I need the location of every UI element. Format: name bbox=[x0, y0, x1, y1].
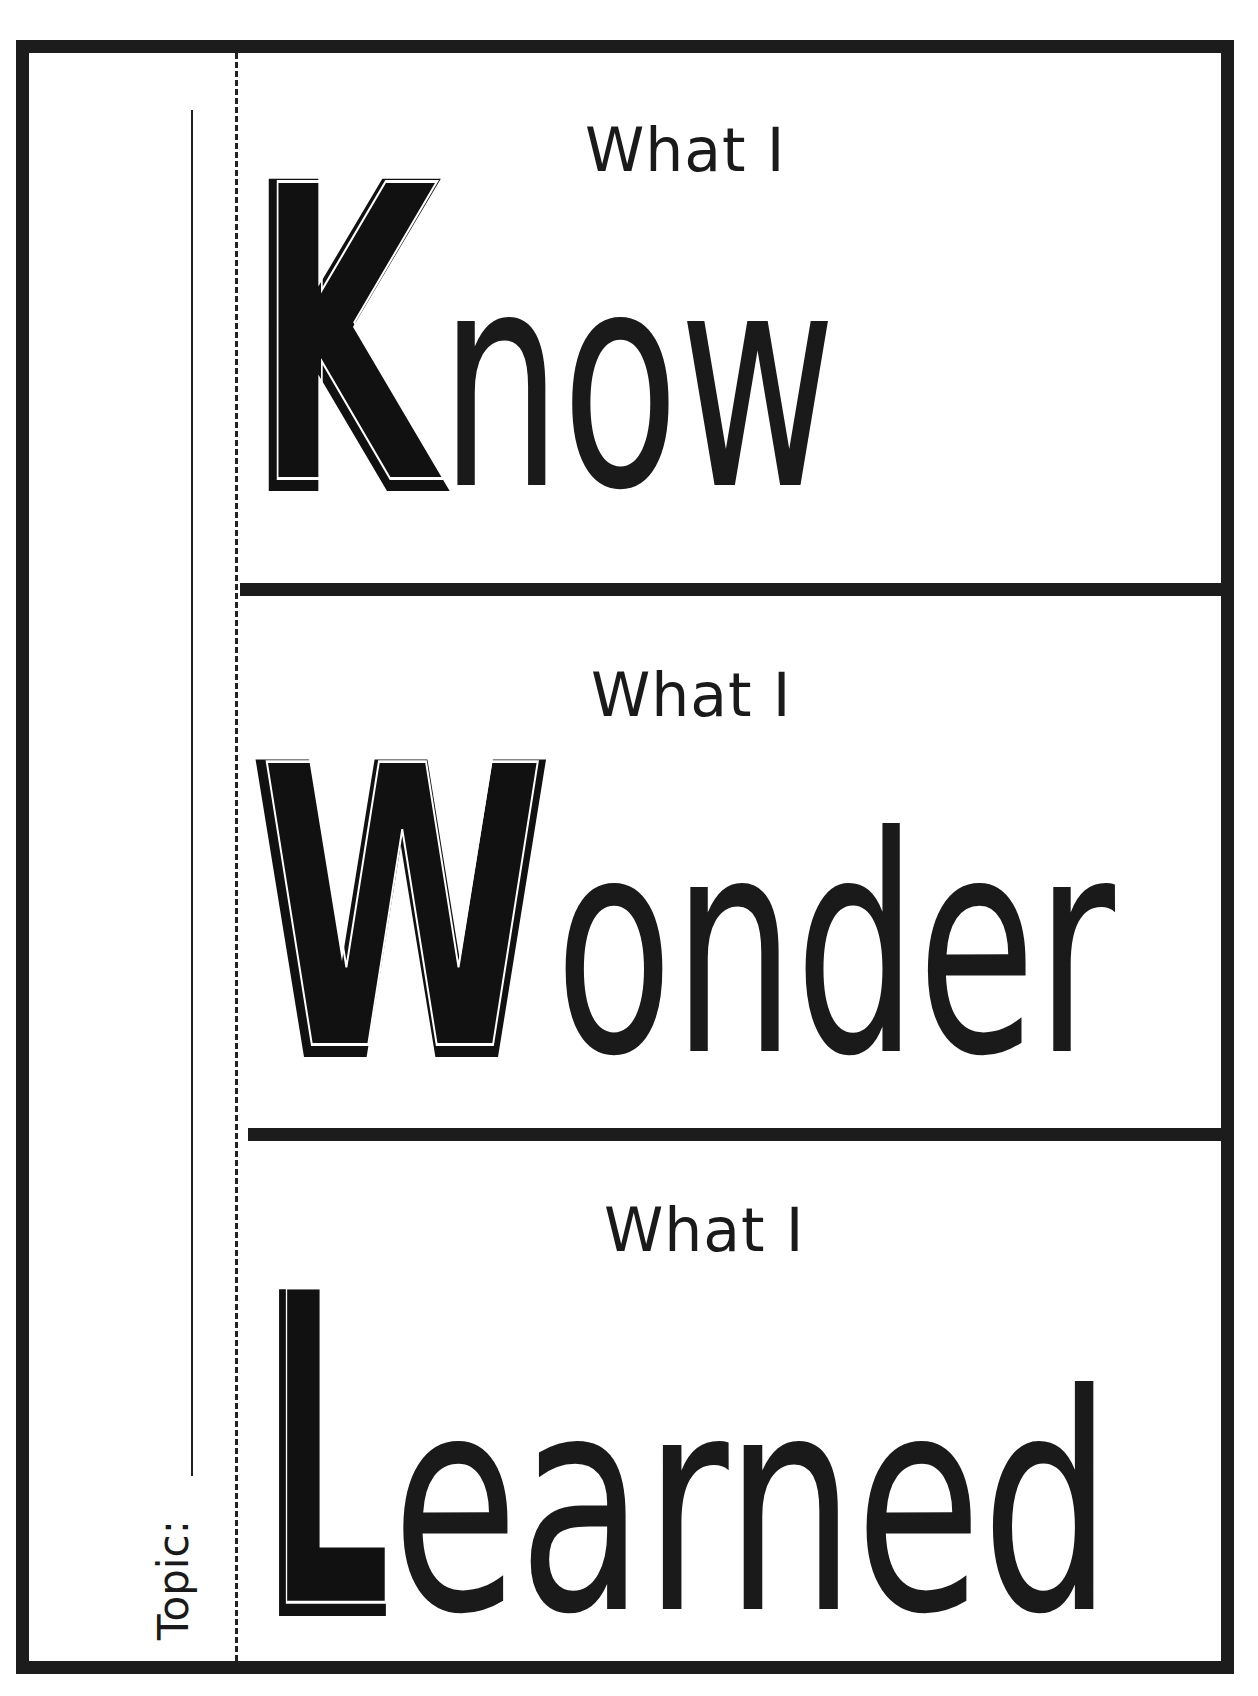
section-learned[interactable]: What I L L earned bbox=[240, 1141, 1220, 1661]
word-initial-inline: W bbox=[259, 685, 546, 1137]
section-wonder[interactable]: What I W W onder bbox=[240, 596, 1220, 1128]
topic-write-line[interactable] bbox=[191, 110, 193, 1476]
topic-label: Topic: bbox=[150, 1480, 198, 1640]
word-initial-inline: K bbox=[256, 101, 447, 575]
word-initial-inline: L bbox=[269, 1202, 391, 1696]
section-word-learned: L L earned bbox=[262, 1271, 1162, 1651]
topic-label-container: Topic: bbox=[150, 1480, 198, 1640]
section-prefix: What I bbox=[591, 660, 791, 730]
section-word-know: K K now bbox=[248, 173, 868, 513]
section-word-wonder: W W onder bbox=[250, 736, 1150, 1076]
word-rest: onder bbox=[555, 773, 1117, 1122]
fold-line bbox=[235, 53, 238, 1661]
word-rest: earned bbox=[392, 1331, 1112, 1680]
section-prefix: What I bbox=[604, 1195, 804, 1265]
word-rest: now bbox=[440, 207, 836, 556]
section-know[interactable]: What I K K now bbox=[240, 53, 1220, 583]
